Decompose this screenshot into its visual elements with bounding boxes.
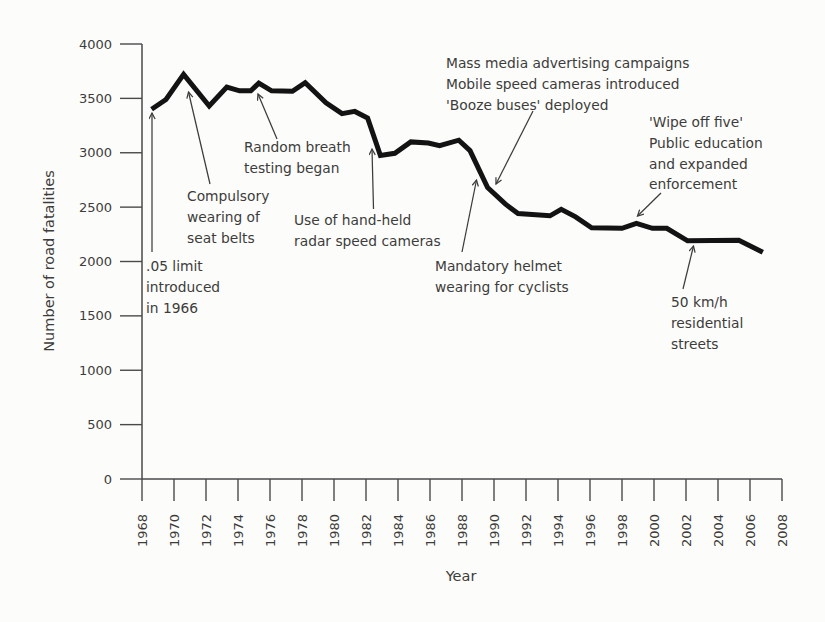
- y-tick-label: 3500: [79, 91, 112, 106]
- x-tick-label: 1998: [615, 514, 630, 547]
- annotation-label-mass-media: Mass media advertising campaignsMobile s…: [446, 55, 689, 113]
- annotation-label-wipe-off-five: 'Wipe off five'Public educationand expan…: [649, 114, 763, 192]
- y-tick-label: 4000: [79, 37, 112, 52]
- annotation-line: 50 km/h: [671, 294, 728, 310]
- x-tick-label: 2004: [711, 514, 726, 547]
- annotation-label-fifty-kmh: 50 km/hresidentialstreets: [671, 294, 743, 352]
- x-tick-label: 2000: [647, 514, 662, 547]
- x-tick-label: 1978: [295, 514, 310, 547]
- x-tick-label: 1984: [391, 514, 406, 547]
- y-axis-title: Number of road fatalities: [41, 170, 57, 351]
- annotation-line: testing began: [244, 160, 339, 176]
- annotation-label-limit-05: .05 limitintroducedin 1966: [146, 258, 220, 316]
- annotation-line: wearing for cyclists: [435, 279, 569, 295]
- x-tick-label: 1990: [487, 514, 502, 547]
- annotation-line: Compulsory: [187, 188, 269, 204]
- x-tick-label: 2002: [679, 514, 694, 547]
- x-tick-label: 1986: [423, 514, 438, 547]
- x-tick-label: 1980: [327, 514, 342, 547]
- annotation-label-helmet: Mandatory helmetwearing for cyclists: [435, 258, 569, 295]
- x-tick-label: 1976: [263, 514, 278, 547]
- x-axis-title: Year: [445, 568, 477, 584]
- annotation-arrow-mass-media: [496, 111, 533, 184]
- annotation-label-seat-belts: Compulsorywearing ofseat belts: [187, 188, 269, 246]
- annotation-helmet: Mandatory helmetwearing for cyclists: [435, 180, 569, 295]
- figure-canvas: 0500100015002000250030003500400019681970…: [0, 0, 825, 622]
- annotation-line: Random breath: [244, 139, 351, 155]
- annotation-line: Mobile speed cameras introduced: [446, 76, 680, 92]
- y-tick-label: 1000: [79, 363, 112, 378]
- annotation-line: radar speed cameras: [294, 233, 441, 249]
- x-tick-label: 2006: [743, 514, 758, 547]
- annotation-wipe-off-five: 'Wipe off five'Public educationand expan…: [638, 114, 763, 216]
- x-tick-label: 1988: [455, 514, 470, 547]
- annotation-line: 'Booze buses' deployed: [446, 97, 609, 113]
- x-tick-label: 2008: [775, 514, 790, 547]
- annotation-line: wearing of: [187, 209, 261, 225]
- x-tick-label: 1994: [551, 514, 566, 547]
- y-tick-label: 2500: [79, 200, 112, 215]
- annotation-line: Public education: [649, 135, 763, 151]
- annotation-line: in 1966: [146, 300, 198, 316]
- annotation-label-radar: Use of hand-heldradar speed cameras: [294, 212, 441, 249]
- y-tick-label: 500: [87, 417, 112, 432]
- annotation-line: Use of hand-held: [294, 212, 411, 228]
- annotation-line: enforcement: [649, 176, 738, 192]
- road-fatalities-line-chart: 0500100015002000250030003500400019681970…: [0, 0, 825, 622]
- annotation-line: 'Wipe off five': [649, 114, 743, 130]
- annotation-line: seat belts: [187, 230, 255, 246]
- annotation-line: introduced: [146, 279, 220, 295]
- y-tick-label: 1500: [79, 308, 112, 323]
- annotation-fifty-kmh: 50 km/hresidentialstreets: [671, 246, 743, 352]
- annotation-arrow-radar: [372, 149, 374, 209]
- annotation-arrow-wipe-off-five: [638, 193, 662, 216]
- annotation-arrow-fifty-kmh: [683, 246, 694, 289]
- y-tick-label: 2000: [79, 254, 112, 269]
- annotation-label-random-breath: Random breathtesting began: [244, 139, 351, 176]
- annotation-line: .05 limit: [146, 258, 203, 274]
- annotation-line: streets: [671, 336, 719, 352]
- x-tick-label: 1972: [199, 514, 214, 547]
- annotations: .05 limitintroducedin 1966Compulsorywear…: [146, 55, 763, 352]
- annotation-arrow-random-breath: [258, 94, 277, 139]
- y-tick-label: 3000: [79, 145, 112, 160]
- annotation-line: residential: [671, 315, 743, 331]
- x-tick-label: 1974: [231, 514, 246, 547]
- x-tick-label: 1992: [519, 514, 534, 547]
- annotation-line: and expanded: [649, 156, 748, 172]
- annotation-arrow-helmet: [462, 180, 477, 252]
- y-tick-label: 0: [104, 472, 112, 487]
- x-tick-label: 1996: [583, 514, 598, 547]
- x-tick-label: 1982: [359, 514, 374, 547]
- x-tick-label: 1970: [167, 514, 182, 547]
- annotation-line: Mass media advertising campaigns: [446, 55, 689, 71]
- x-tick-label: 1968: [135, 514, 150, 547]
- annotation-line: Mandatory helmet: [435, 258, 562, 274]
